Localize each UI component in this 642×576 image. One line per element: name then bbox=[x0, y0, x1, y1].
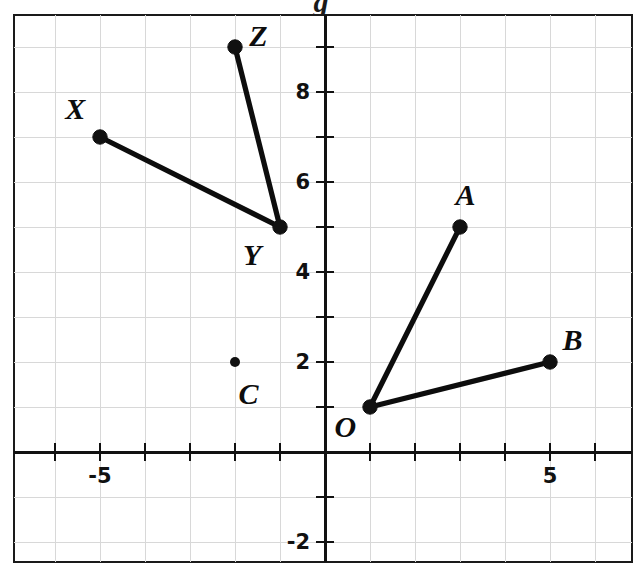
point-label-b: B bbox=[561, 323, 582, 356]
y-axis-tick-label: 2 bbox=[295, 350, 310, 374]
data-point-b bbox=[543, 355, 557, 369]
data-point-y bbox=[273, 220, 287, 234]
y-axis-tick-label: 4 bbox=[295, 260, 310, 284]
x-axis-tick-label: -5 bbox=[88, 464, 111, 488]
point-label-z: Z bbox=[248, 19, 267, 52]
coordinate-plane-svg: g -55-22468 XYZCOAB bbox=[0, 0, 642, 576]
point-label-x: X bbox=[64, 92, 86, 125]
data-point-x bbox=[93, 130, 107, 144]
point-label-c: C bbox=[238, 377, 259, 410]
x-axis-tick-label: 5 bbox=[543, 464, 558, 488]
point-label-y: Y bbox=[243, 238, 264, 271]
point-label-o: O bbox=[334, 410, 356, 443]
y-axis-tick-label: 6 bbox=[295, 170, 310, 194]
point-label-a: A bbox=[453, 178, 475, 211]
data-point-c bbox=[230, 357, 240, 367]
coordinate-plane-figure: g -55-22468 XYZCOAB bbox=[0, 0, 642, 576]
data-point-a bbox=[453, 220, 467, 234]
data-point-o bbox=[363, 400, 377, 414]
data-point-z bbox=[228, 40, 242, 54]
y-axis-tick-label: 8 bbox=[295, 80, 310, 104]
y-axis-tick-label: -2 bbox=[287, 530, 310, 554]
